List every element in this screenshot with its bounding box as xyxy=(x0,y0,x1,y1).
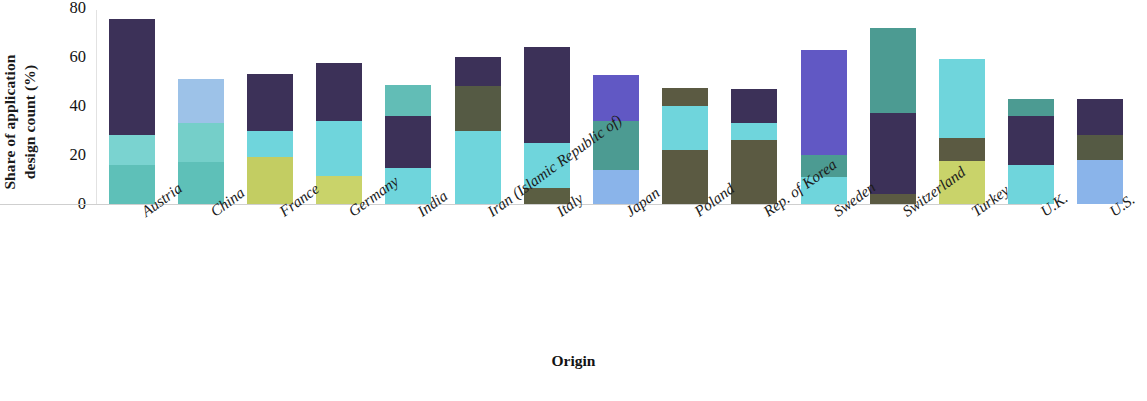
bar-segment xyxy=(1008,99,1054,116)
y-tick-label: 60 xyxy=(40,47,86,67)
bar-segment xyxy=(455,131,501,205)
bar-segment xyxy=(731,89,777,123)
bar xyxy=(455,57,501,204)
plot-area xyxy=(97,8,1135,204)
bar xyxy=(109,19,155,204)
x-axis-title: Origin xyxy=(0,352,1147,370)
bar-segment xyxy=(524,47,570,143)
bar-group xyxy=(109,19,155,204)
bar-segment xyxy=(662,106,708,150)
stacked-bar-chart: Share of application design count (%) 02… xyxy=(0,0,1147,401)
bar-segment xyxy=(870,28,916,114)
bar xyxy=(731,89,777,204)
bar-segment xyxy=(801,50,847,155)
bar-segment xyxy=(455,57,501,86)
bar-group xyxy=(1077,99,1123,204)
bar-segment xyxy=(316,121,362,176)
bar-segment xyxy=(455,86,501,130)
bar-segment xyxy=(109,135,155,164)
bar-segment xyxy=(870,113,916,194)
y-tick-label: 20 xyxy=(40,145,86,165)
y-axis-ticks: 020406080 xyxy=(22,0,86,401)
x-axis-ticks: AustriaChinaFranceGermanyIndiaIran (Isla… xyxy=(97,206,1139,326)
bar-group xyxy=(316,63,362,204)
bar xyxy=(316,63,362,204)
y-tick-label: 80 xyxy=(40,0,86,18)
bar-segment xyxy=(109,19,155,135)
bar-segment xyxy=(939,138,985,161)
bar-segment xyxy=(662,88,708,106)
bar-segment xyxy=(178,123,224,162)
bar-segment xyxy=(178,79,224,123)
bar-segment xyxy=(1077,135,1123,160)
bar-group xyxy=(455,57,501,204)
bar-segment xyxy=(316,63,362,121)
bar-segment xyxy=(385,116,431,169)
bar-group xyxy=(1008,99,1054,204)
bar-group xyxy=(178,79,224,204)
bar-segment xyxy=(939,59,985,137)
bar-segment xyxy=(731,123,777,140)
bar xyxy=(247,74,293,204)
bar-segment xyxy=(1077,99,1123,136)
bar-segment xyxy=(662,150,708,204)
bar xyxy=(662,88,708,204)
y-tick-label: 40 xyxy=(40,96,86,116)
bar-segment xyxy=(731,140,777,204)
bar-group xyxy=(662,88,708,204)
bar xyxy=(178,79,224,204)
bar-group xyxy=(731,89,777,204)
bar-segment xyxy=(1008,116,1054,165)
bar xyxy=(870,28,916,204)
bar xyxy=(1008,99,1054,204)
bar-group xyxy=(870,28,916,204)
bar-segment xyxy=(385,85,431,116)
bar xyxy=(1077,99,1123,204)
bar-segment xyxy=(247,74,293,130)
y-axis-title-line1: Share of application xyxy=(0,22,20,222)
bar-group xyxy=(247,74,293,204)
bar-segment xyxy=(247,131,293,158)
